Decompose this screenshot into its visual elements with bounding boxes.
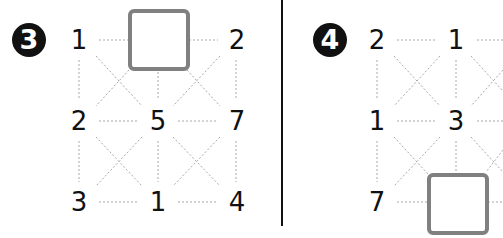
grid-cell-r0c1: 1 <box>441 25 471 55</box>
grid-cell-r1c1: 3 <box>441 106 471 136</box>
grid-cell-r0c0: 2 <box>362 25 392 55</box>
puzzle-number-badge: 4 <box>313 23 347 57</box>
puzzle-4: 4 2 1 1 3 7 <box>0 0 503 238</box>
grid-cell-r1c0: 1 <box>362 106 392 136</box>
grid-cell-r2c0: 7 <box>362 187 392 217</box>
blank-answer-box[interactable] <box>427 173 489 235</box>
